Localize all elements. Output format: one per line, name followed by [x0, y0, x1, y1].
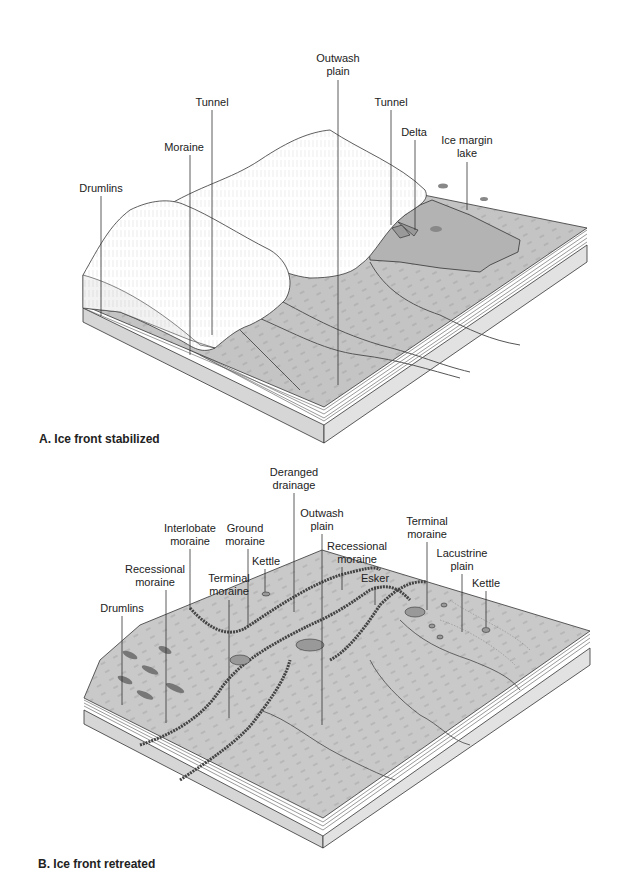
label-deranged-drainage: Deranged drainage	[264, 466, 324, 492]
label-tunnel-a1: Tunnel	[186, 96, 238, 109]
label-outwash-plain-a: Outwash plain	[312, 52, 364, 78]
label-delta: Delta	[394, 126, 434, 139]
caption-panel-b: B. Ice front retreated	[38, 857, 155, 870]
label-ground-moraine: Ground moraine	[220, 522, 270, 548]
label-drumlins-b: Drumlins	[93, 602, 151, 615]
label-drumlins-a: Drumlins	[72, 182, 130, 195]
label-outwash-plain-b: Outwash plain	[296, 507, 348, 533]
label-esker: Esker	[355, 572, 395, 585]
label-terminal-moraine-b-right: Terminal moraine	[400, 515, 454, 541]
label-moraine-a: Moraine	[158, 141, 210, 154]
label-tunnel-a2: Tunnel	[365, 96, 417, 109]
label-interlobate-moraine: Interlobate moraine	[155, 522, 225, 548]
label-lacustrine-plain: Lacustrine plain	[430, 547, 494, 573]
label-recessional-moraine-b-left: Recessional moraine	[120, 563, 190, 589]
label-kettle-b-left: Kettle	[246, 555, 286, 568]
label-recessional-moraine-b-right: Recessional moraine	[322, 540, 392, 566]
caption-panel-a: A. Ice front stabilized	[39, 432, 160, 446]
block-a-ice-front-stabilized	[83, 80, 587, 443]
label-terminal-moraine-b-left: Terminal moraine	[202, 572, 256, 598]
label-ice-margin-lake: Ice margin lake	[432, 134, 502, 160]
label-kettle-b-right: Kettle	[466, 577, 506, 590]
